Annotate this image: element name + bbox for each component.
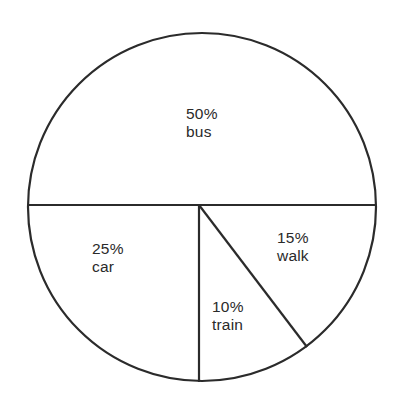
slice-percent-bus: 50%: [186, 105, 218, 123]
slice-percent-walk: 15%: [277, 229, 309, 247]
slice-label-train: 10% train: [212, 298, 244, 334]
pie-chart: [0, 0, 401, 413]
slice-label-car: 25% car: [92, 240, 124, 276]
slice-percent-train: 10%: [212, 298, 244, 316]
slice-name-car: car: [92, 258, 124, 276]
slice-label-walk: 15% walk: [277, 229, 309, 265]
slice-name-train: train: [212, 316, 244, 334]
pie-outline: [28, 33, 376, 381]
slice-name-walk: walk: [277, 247, 309, 265]
slice-percent-car: 25%: [92, 240, 124, 258]
slice-name-bus: bus: [186, 123, 218, 141]
slice-label-bus: 50% bus: [186, 105, 218, 141]
